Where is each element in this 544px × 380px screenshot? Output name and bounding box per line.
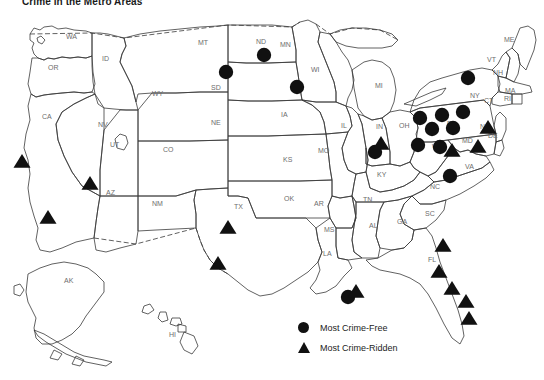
crime-ridden-marker xyxy=(461,311,478,325)
state-label-group: WAORIDMTNDMNWIMISDWYNEIAILINOHCANVUTCOKS… xyxy=(42,33,516,338)
legend-label-crime-free: Most Crime-Free xyxy=(320,323,388,333)
state-label-al: AL xyxy=(369,222,378,229)
state-label-fl: FL xyxy=(428,256,436,263)
triangle-marker-icon xyxy=(298,342,310,353)
state-label-ma: MA xyxy=(505,87,516,94)
state-label-wi: WI xyxy=(311,66,320,73)
state-label-ak: AK xyxy=(64,277,74,284)
state-label-il: IL xyxy=(341,122,347,129)
state-label-nd: ND xyxy=(256,38,266,45)
state-label-ar: AR xyxy=(314,200,324,207)
state-label-ia: IA xyxy=(281,111,288,118)
state-label-ca: CA xyxy=(42,113,52,120)
crime-ridden-marker xyxy=(458,294,475,308)
legend-label-crime-ridden: Most Crime-Ridden xyxy=(320,343,398,353)
state-label-ms: MS xyxy=(324,226,335,233)
state-label-nv: NV xyxy=(98,121,108,128)
crime-ridden-marker-group xyxy=(14,120,497,325)
crime-ridden-marker xyxy=(40,210,57,224)
legend-row-crime-free: Most Crime-Free xyxy=(298,320,448,340)
crime-free-marker xyxy=(433,140,447,154)
map-page: Crime in the Metro Areas xyxy=(0,0,544,380)
state-label-sc: SC xyxy=(425,210,435,217)
crime-free-marker xyxy=(443,169,457,183)
state-label-mt: MT xyxy=(198,39,209,46)
state-label-ne: NE xyxy=(211,119,221,126)
state-label-md: MD xyxy=(462,137,473,144)
state-label-mo: MO xyxy=(318,147,330,154)
state-label-mi: MI xyxy=(375,82,383,89)
crime-free-marker-group xyxy=(219,48,475,304)
state-label-ga: GA xyxy=(397,218,407,225)
state-label-tn: TN xyxy=(363,196,372,203)
state-label-wa: WA xyxy=(66,33,77,40)
state-label-nm: NM xyxy=(152,200,163,207)
crime-ridden-marker xyxy=(435,238,452,252)
state-label-oh: OH xyxy=(399,122,410,129)
crime-free-marker xyxy=(290,80,304,94)
state-label-or: OR xyxy=(48,64,59,71)
state-label-ny: NY xyxy=(470,92,480,99)
state-label-az: AZ xyxy=(106,189,116,196)
state-label-la: LA xyxy=(323,250,332,257)
crime-ridden-marker xyxy=(82,176,99,190)
state-label-vt: VT xyxy=(487,56,497,63)
state-label-mn: MN xyxy=(280,41,291,48)
circle-marker-icon xyxy=(298,322,309,333)
crime-free-marker xyxy=(446,121,460,135)
state-label-nc: NC xyxy=(430,183,440,190)
state-label-ok: OK xyxy=(284,195,294,202)
state-label-me: ME xyxy=(504,36,515,43)
crime-free-marker xyxy=(411,138,425,152)
state-label-ut: UT xyxy=(110,141,120,148)
state-label-in: IN xyxy=(376,123,383,130)
crime-free-marker xyxy=(456,105,470,119)
state-label-ri: RI xyxy=(504,95,511,102)
state-label-tx: TX xyxy=(234,203,243,210)
state-label-wy: WY xyxy=(152,90,164,97)
crime-free-marker xyxy=(257,48,271,62)
us-map: WAORIDMTNDMNWIMISDWYNEIAILINOHCANVUTCOKS… xyxy=(0,0,544,380)
crime-free-marker xyxy=(435,108,449,122)
crime-ridden-marker xyxy=(220,220,237,234)
crime-free-marker xyxy=(413,111,427,125)
state-label-nh: NH xyxy=(493,69,503,76)
state-label-ct: CT xyxy=(484,97,494,104)
state-label-sd: SD xyxy=(211,84,221,91)
state-label-va: VA xyxy=(465,163,474,170)
state-outlines xyxy=(14,20,536,366)
crime-ridden-marker xyxy=(444,281,461,295)
legend-row-crime-ridden: Most Crime-Ridden xyxy=(298,340,448,360)
crime-free-marker xyxy=(425,122,439,136)
crime-ridden-marker xyxy=(373,136,390,150)
state-label-ky: KY xyxy=(377,171,387,178)
crime-free-marker xyxy=(219,65,233,79)
map-legend: Most Crime-Free Most Crime-Ridden xyxy=(298,320,448,362)
crime-ridden-marker xyxy=(431,264,448,278)
crime-ridden-marker xyxy=(210,256,227,270)
state-label-co: CO xyxy=(163,146,174,153)
state-label-ks: KS xyxy=(283,156,293,163)
crime-free-marker xyxy=(461,71,475,85)
state-label-id: ID xyxy=(102,55,109,62)
state-label-hi: HI xyxy=(169,331,176,338)
